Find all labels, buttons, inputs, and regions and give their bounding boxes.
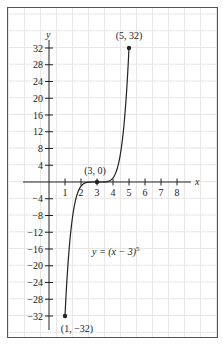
y-tick-label: −24	[27, 277, 43, 288]
function-graph: 1234567832282420161284−4−8−12−16−20−24−2…	[0, 0, 223, 345]
y-tick-label: −32	[27, 311, 43, 322]
data-point	[95, 180, 99, 184]
y-tick-label: 12	[33, 126, 43, 137]
equation-label: y = (x − 3)5	[91, 245, 140, 258]
x-tick-label: 4	[111, 187, 116, 198]
point-label: (1, −32)	[61, 323, 93, 335]
y-tick-label: −16	[27, 244, 43, 255]
graph-frame	[8, 8, 218, 338]
point-label: (5, 32)	[116, 30, 143, 42]
y-tick-label: 28	[33, 59, 43, 70]
y-tick-label: −8	[32, 210, 43, 221]
x-axis-label: x	[194, 176, 200, 187]
y-tick-label: 4	[38, 160, 43, 171]
equation-text: y = (x − 3)	[91, 246, 137, 258]
y-tick-label: −12	[27, 227, 43, 238]
y-tick-label: −4	[32, 193, 43, 204]
y-axis-label: y	[45, 29, 51, 40]
y-tick-label: 20	[33, 93, 43, 104]
y-tick-label: −28	[27, 294, 43, 305]
equation-exponent: 5	[136, 245, 140, 253]
x-tick-label: 1	[63, 187, 68, 198]
data-point	[127, 46, 131, 50]
x-tick-label: 8	[175, 187, 180, 198]
y-tick-label: 24	[33, 76, 43, 87]
data-point	[63, 314, 67, 318]
y-tick-label: −20	[27, 260, 43, 271]
y-tick-label: 8	[38, 143, 43, 154]
axes	[23, 40, 191, 330]
x-tick-label: 7	[159, 187, 164, 198]
point-label: (3, 0)	[84, 165, 106, 177]
x-tick-label: 6	[143, 187, 148, 198]
x-tick-label: 5	[127, 187, 132, 198]
y-tick-label: 16	[33, 110, 43, 121]
y-tick-label: 32	[33, 43, 43, 54]
x-tick-label: 3	[95, 187, 100, 198]
